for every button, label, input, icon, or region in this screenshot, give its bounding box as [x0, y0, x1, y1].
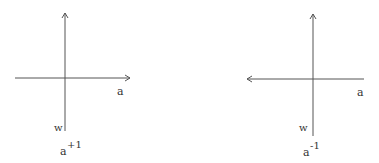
diagram-right: a w a -1: [247, 14, 364, 159]
horizontal-axis-label: a: [357, 86, 364, 99]
vertical-axis-label: w: [54, 122, 63, 133]
caption-base: a: [60, 145, 67, 158]
caption-base: a: [303, 146, 310, 159]
diagram-canvas: a w a +1 a w a -1: [0, 0, 379, 163]
caption-exponent: +1: [67, 139, 82, 150]
horizontal-axis-label: a: [117, 85, 124, 98]
caption-exponent: -1: [310, 140, 320, 151]
diagram-left: a w a +1: [15, 13, 130, 158]
vertical-axis-label: w: [299, 122, 308, 133]
